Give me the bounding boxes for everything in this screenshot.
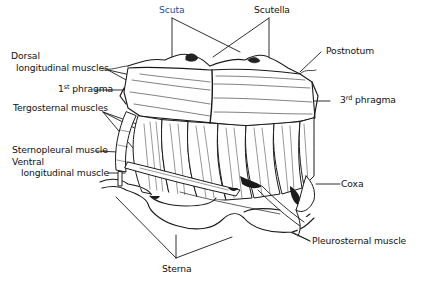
phragma3-suffix: rd: [346, 94, 352, 102]
label-ventral-line1: Ventral: [12, 157, 44, 167]
phragma3-word: phragma: [355, 94, 396, 105]
label-scuta: Scuta: [159, 5, 184, 15]
label-1st-phragma: 1st phragma: [58, 84, 113, 94]
label-dorsal-line2: longitudinal muscles: [16, 63, 109, 73]
label-ventral-line2: longitudinal muscle: [21, 168, 109, 178]
label-pleurosternal: Pleurosternal muscle: [312, 236, 406, 246]
label-sterna: Sterna: [162, 264, 192, 274]
diagram-canvas: Scuta Scutella Dorsal longitudinal muscl…: [0, 0, 433, 283]
phragma1-word: phragma: [72, 83, 113, 94]
label-postnotum: Postnotum: [326, 46, 374, 56]
phragma1-suffix: st: [64, 83, 70, 91]
label-scutella: Scutella: [254, 5, 290, 15]
apodeme: [118, 172, 122, 186]
label-tergosternal: Tergosternal muscles: [13, 103, 108, 113]
label-coxa: Coxa: [341, 179, 363, 189]
dorsal-longitudinal-muscles: [120, 67, 318, 126]
label-sternopleural: Sternopleural muscle: [12, 145, 108, 155]
label-3rd-phragma: 3rd phragma: [340, 95, 396, 105]
label-dorsal-line1: Dorsal: [11, 51, 40, 61]
